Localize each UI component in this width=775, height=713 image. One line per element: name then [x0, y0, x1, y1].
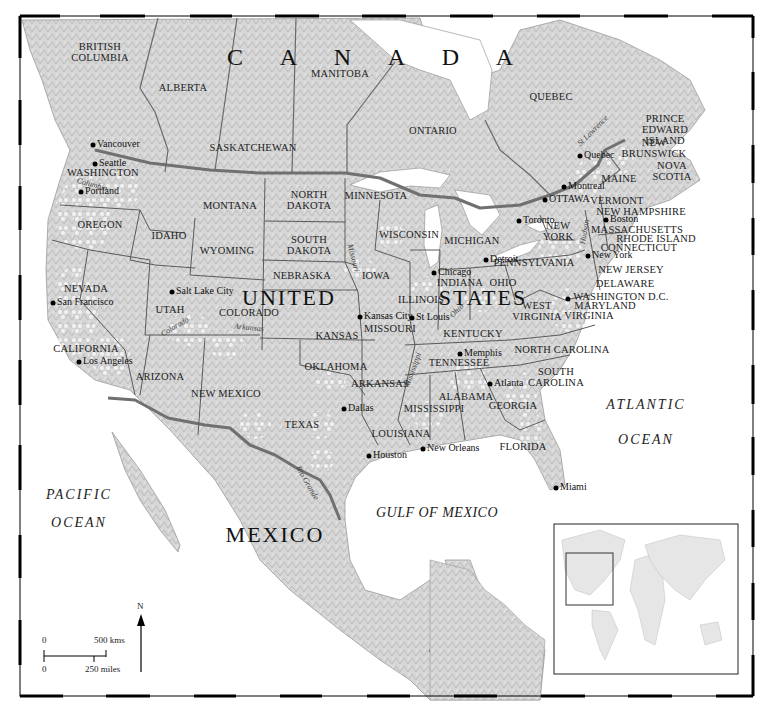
states-label-wisconsin: WISCONSIN: [379, 229, 439, 240]
provinces-label-nova-scotia: NOVASCOTIA: [652, 160, 691, 182]
city-label-atlanta: Atlanta: [494, 378, 523, 388]
states-label-nebraska: NEBRASKA: [273, 270, 331, 281]
city-label-toronto: Toronto: [523, 215, 555, 225]
city-label-portland: Portland: [85, 186, 119, 196]
states-label-new-jersey: NEW JERSEY: [598, 264, 664, 275]
city-marker-washington-dc-city: [566, 297, 571, 302]
states-label-maine: MAINE: [601, 173, 636, 184]
city-label-houston: Houston: [373, 450, 407, 460]
city-label-kansas-city: Kansas City: [364, 311, 413, 321]
countries-label-canada: C A N A D A: [227, 45, 529, 69]
states-label-michigan: MICHIGAN: [444, 235, 499, 246]
states-label-illinois: ILLINOIS: [398, 294, 444, 305]
provinces-label-alberta: ALBERTA: [159, 82, 207, 93]
states-label-indiana: INDIANA: [437, 277, 483, 288]
states-label-texas: TEXAS: [285, 419, 320, 430]
city-marker-salt-lake-city: [170, 290, 175, 295]
city-marker-los-angeles: [77, 360, 82, 365]
city-label-detroit: Detroit: [490, 254, 518, 264]
countries-label-united: UNITED: [242, 287, 336, 309]
states-label-maryland: MARYLAND: [574, 300, 636, 311]
oceans-label-pacific-2: OCEAN: [51, 516, 107, 530]
city-label-boston: Boston: [610, 214, 638, 224]
states-label-arizona: ARIZONA: [136, 371, 185, 382]
city-marker-miami: [554, 486, 559, 491]
city-label-ottawa: OTTAWA: [549, 194, 590, 204]
states-label-vermont: VERMONT: [590, 195, 643, 206]
states-label-alabama: ALABAMA: [439, 391, 494, 402]
states-label-west-virginia: WESTVIRGINIA: [512, 300, 561, 322]
provinces-label-manitoba: MANITOBA: [311, 68, 369, 79]
states-label-missouri: MISSOURI: [364, 323, 416, 334]
city-label-dallas: Dallas: [348, 403, 374, 413]
provinces-label-saskatchewan: SASKATCHEWAN: [210, 142, 297, 153]
states-label-georgia: GEORGIA: [489, 400, 538, 411]
provinces-label-british-columbia: BRITISHCOLUMBIA: [71, 41, 129, 63]
states-label-south-dakota: SOUTHDAKOTA: [287, 234, 332, 256]
city-label-chicago: Chicago: [438, 267, 471, 277]
oceans-label-atlantic: ATLANTIC: [606, 398, 685, 412]
inset-world-map: [554, 524, 738, 674]
states-label-louisiana: LOUISIANA: [372, 428, 431, 439]
city-marker-montreal: [562, 185, 567, 190]
city-label-san-francisco: San Francisco: [57, 297, 113, 307]
states-label-virginia: VIRGINIA: [564, 310, 613, 321]
states-label-utah: UTAH: [155, 304, 184, 315]
city-marker-memphis: [458, 352, 463, 357]
states-label-minnesota: MINNESOTA: [345, 190, 408, 201]
states-label-kansas: KANSAS: [315, 330, 358, 341]
provinces-label-prince-edward-island: PRINCEEDWARDISLAND: [642, 113, 688, 146]
city-label-montreal: Montreal: [568, 181, 605, 191]
city-label-new-orleans: New Orleans: [427, 443, 479, 453]
city-label-los-angeles: Los Angeles: [83, 356, 133, 366]
city-label-seattle: Seattle: [99, 158, 126, 168]
north-arrow-label: N: [137, 601, 144, 611]
city-marker-vancouver: [91, 143, 96, 148]
city-marker-kansas-city: [358, 315, 363, 320]
countries-label-mexico: MEXICO: [226, 524, 325, 546]
states-label-wyoming: WYOMING: [200, 245, 254, 256]
provinces-label-ontario: ONTARIO: [409, 125, 457, 136]
city-label-vancouver: Vancouver: [97, 139, 140, 149]
states-label-south-carolina: SOUTHCAROLINA: [528, 366, 584, 388]
city-label-st-louis: St Louis: [416, 312, 450, 322]
city-marker-new-york-city: [586, 254, 591, 259]
city-marker-ottawa: [543, 198, 548, 203]
states-label-idaho: IDAHO: [152, 230, 187, 241]
city-marker-seattle: [93, 162, 98, 167]
city-marker-atlanta: [488, 382, 493, 387]
city-label-miami: Miami: [560, 482, 587, 492]
city-label-memphis: Memphis: [464, 348, 502, 358]
oceans-label-gulf: GULF OF MEXICO: [376, 506, 498, 520]
city-marker-houston: [367, 454, 372, 459]
states-label-new-mexico: NEW MEXICO: [191, 388, 261, 399]
city-marker-toronto: [517, 219, 522, 224]
states-label-mississippi: MISSISSIPPI: [404, 403, 465, 414]
states-label-delaware: DELAWARE: [596, 278, 655, 289]
city-label-quebec-city: Quebec: [584, 150, 615, 160]
states-label-oklahoma: OKLAHOMA: [305, 361, 368, 372]
city-label-new-york-city: New York: [592, 250, 633, 260]
city-marker-chicago: [432, 271, 437, 276]
oceans-label-atlantic-2: OCEAN: [618, 433, 674, 447]
states-label-nevada: NEVADA: [64, 283, 108, 294]
scale-km-end: 500 kms: [94, 635, 125, 645]
states-label-arkansas: ARKANSAS: [351, 378, 409, 389]
scale-mi-start: 0: [42, 664, 47, 674]
oceans-label-pacific: PACIFIC: [46, 488, 112, 502]
states-label-florida: FLORIDA: [500, 441, 547, 452]
states-label-oregon: OREGON: [78, 219, 123, 230]
city-marker-portland: [79, 190, 84, 195]
city-marker-st-louis: [410, 316, 415, 321]
city-label-salt-lake-city: Salt Lake City: [176, 286, 234, 296]
states-label-montana: MONTANA: [203, 200, 257, 211]
states-label-colorado: COLORADO: [219, 307, 279, 318]
city-marker-dallas: [342, 407, 347, 412]
city-marker-san-francisco: [51, 301, 56, 306]
city-marker-quebec-city: [578, 154, 583, 159]
city-marker-detroit: [484, 258, 489, 263]
city-marker-boston: [604, 218, 609, 223]
states-label-north-carolina: NORTH CAROLINA: [514, 344, 609, 355]
scale-km-start: 0: [42, 635, 47, 645]
scale-mi-end: 250 miles: [85, 664, 120, 674]
